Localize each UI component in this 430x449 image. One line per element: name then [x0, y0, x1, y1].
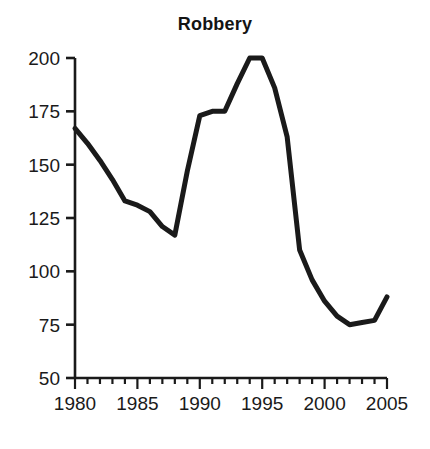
y-axis-tick-labels: 2001751501251007550 [28, 48, 60, 389]
x-tick-label: 2000 [303, 393, 345, 414]
x-tick-label: 1990 [179, 393, 221, 414]
y-tick-label: 125 [28, 208, 60, 229]
data-line-robbery [75, 58, 387, 325]
x-axis-tick-labels: 198019851990199520002005 [54, 393, 408, 414]
x-tick-label: 1995 [241, 393, 283, 414]
y-tick-label: 50 [39, 368, 60, 389]
y-tick-label: 200 [28, 48, 60, 69]
data-series-group [75, 58, 387, 325]
line-chart-plot: 2001751501251007550 19801985199019952000… [0, 0, 430, 449]
x-axis-ticks [75, 378, 387, 389]
chart-figure: Robbery 2001751501251007550 198019851990… [0, 0, 430, 449]
y-axis-ticks [66, 58, 75, 378]
y-tick-label: 75 [39, 315, 60, 336]
x-tick-label: 1980 [54, 393, 96, 414]
x-tick-label: 1985 [116, 393, 158, 414]
chart-axes [75, 58, 387, 378]
y-tick-label: 175 [28, 101, 60, 122]
y-tick-label: 150 [28, 155, 60, 176]
y-tick-label: 100 [28, 261, 60, 282]
x-tick-label: 2005 [366, 393, 408, 414]
